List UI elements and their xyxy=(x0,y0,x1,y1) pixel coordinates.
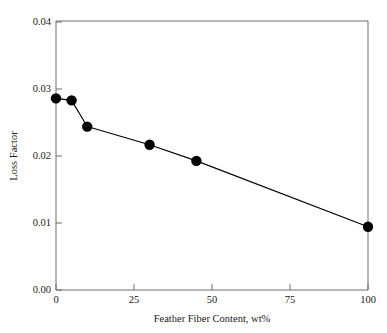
data-point xyxy=(51,93,61,103)
data-series-loss-factor xyxy=(51,93,373,232)
x-tick-label-3: 75 xyxy=(285,294,296,305)
y-tick-label-3: 0.03 xyxy=(33,83,51,94)
chart-container: 0.04 0.03 0.02 0.01 0.00 0 25 50 75 100 … xyxy=(0,0,387,333)
plot-frame xyxy=(56,21,368,290)
data-point xyxy=(82,121,92,131)
series-line xyxy=(56,98,368,226)
x-axis-title: Feather Fiber Content, wt% xyxy=(154,313,271,324)
x-axis-ticks xyxy=(56,284,368,290)
y-tick-label-4: 0.04 xyxy=(33,16,52,27)
data-point xyxy=(66,95,76,105)
data-point xyxy=(191,156,201,166)
y-axis-title: Loss Factor xyxy=(8,131,19,181)
y-axis-ticks xyxy=(56,22,62,290)
series-markers xyxy=(51,93,373,232)
x-tick-label-2: 50 xyxy=(207,294,218,305)
data-point xyxy=(363,222,373,232)
x-tick-label-4: 100 xyxy=(360,294,376,305)
y-tick-label-0: 0.00 xyxy=(33,284,51,295)
y-tick-label-2: 0.02 xyxy=(33,150,51,161)
x-tick-label-0: 0 xyxy=(53,294,58,305)
x-tick-label-1: 25 xyxy=(129,294,140,305)
x-axis-tick-labels: 0 25 50 75 100 xyxy=(53,294,376,305)
data-point xyxy=(144,140,154,150)
axes-frame-rect xyxy=(56,21,368,290)
y-tick-label-1: 0.01 xyxy=(33,217,51,228)
y-axis-tick-labels: 0.04 0.03 0.02 0.01 0.00 xyxy=(33,16,52,295)
loss-factor-line-chart: 0.04 0.03 0.02 0.01 0.00 0 25 50 75 100 … xyxy=(0,0,387,333)
